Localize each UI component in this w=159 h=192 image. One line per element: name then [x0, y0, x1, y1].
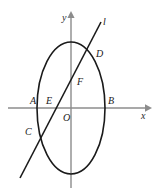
- geometry-figure: A E O B C D F x y l: [0, 0, 159, 192]
- point-label-d: D: [96, 49, 103, 59]
- point-label-o: O: [63, 113, 70, 123]
- point-label-a: A: [30, 96, 36, 106]
- x-axis-arrowhead: [145, 104, 152, 112]
- y-axis-arrowhead: [67, 11, 74, 18]
- point-label-f: F: [77, 77, 83, 87]
- point-label-b: B: [108, 96, 114, 106]
- point-label-e: E: [46, 96, 52, 106]
- point-label-c: C: [25, 127, 32, 137]
- x-axis-label: x: [141, 111, 145, 121]
- line-label-l: l: [103, 17, 106, 27]
- y-axis: [67, 11, 74, 188]
- y-axis-label: y: [62, 13, 66, 23]
- figure-canvas: [0, 0, 159, 192]
